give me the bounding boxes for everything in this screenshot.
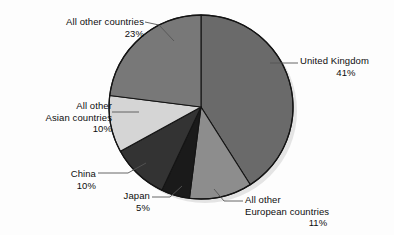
slice-label-japan: Japan 5% <box>92 190 150 213</box>
slice-label-line: All other <box>245 194 391 206</box>
slice-label-all-other-countries: All other countries 23% <box>14 16 144 39</box>
slice-value: 41% <box>300 67 392 79</box>
slice-label-united-kingdom: United Kingdom 41% <box>300 55 392 78</box>
slice-label-china: China 10% <box>34 168 96 191</box>
slice-label-line: Japan <box>92 190 150 202</box>
pie-slice-group <box>109 15 293 199</box>
slice-value: 11% <box>245 217 391 229</box>
slice-label-line: All other countries <box>14 16 144 28</box>
slice-label-line: China <box>34 168 96 180</box>
slice-value: 23% <box>14 28 144 40</box>
slice-label-all-other-european-countries: All other European countries 11% <box>245 194 391 229</box>
slice-label-line: United Kingdom <box>300 55 392 67</box>
slice-label-line: Asian countries <box>8 112 112 124</box>
slice-value: 5% <box>92 202 150 214</box>
slice-value: 10% <box>34 180 96 192</box>
pie-chart-figure: All other countries 23% United Kingdom 4… <box>0 0 394 235</box>
slice-label-line: All other <box>8 100 112 112</box>
slice-label-all-other-asian-countries: All other Asian countries 10% <box>8 100 112 135</box>
slice-value: 10% <box>8 123 112 135</box>
slice-label-line: European countries <box>245 206 391 218</box>
